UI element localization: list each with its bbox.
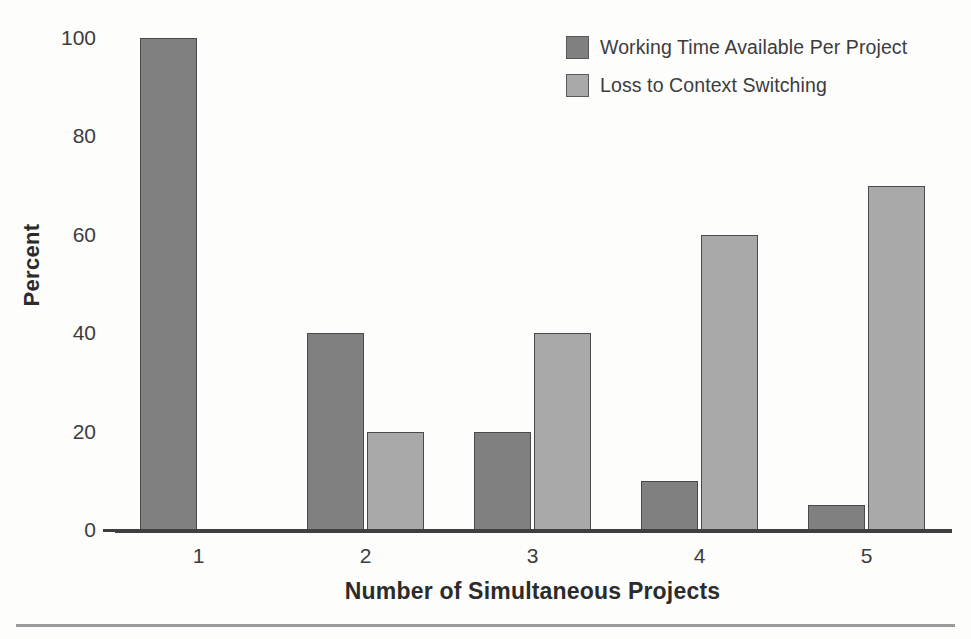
bar [868, 186, 925, 530]
bar [307, 333, 364, 530]
bottom-divider [16, 624, 955, 627]
bar [140, 38, 197, 530]
x-axis-line [115, 529, 952, 533]
bar-group [140, 38, 257, 530]
y-tick-label: 100 [36, 26, 96, 50]
x-tick-label: 2 [316, 544, 416, 568]
x-tick-label: 3 [483, 544, 583, 568]
y-tick-label: 60 [36, 223, 96, 247]
bar [474, 432, 531, 530]
plot-area [115, 38, 950, 530]
y-tick-label: 80 [36, 124, 96, 148]
x-tick-label: 4 [650, 544, 750, 568]
y-axis-title: Percent [19, 185, 45, 345]
bar-group [641, 38, 758, 530]
x-axis-tick-labels: 12345 [115, 544, 950, 574]
x-tick-label: 5 [817, 544, 917, 568]
y-axis-zero-tick [103, 529, 116, 532]
bar-group [808, 38, 925, 530]
bar-group [307, 38, 424, 530]
bar [701, 235, 758, 530]
y-tick-label: 20 [36, 420, 96, 444]
bar [534, 333, 591, 530]
bar-group [474, 38, 591, 530]
y-tick-label: 0 [36, 518, 96, 542]
x-axis-title: Number of Simultaneous Projects [115, 578, 950, 605]
bar [367, 432, 424, 530]
x-tick-label: 1 [149, 544, 249, 568]
bar [641, 481, 698, 530]
bar-chart-figure: Working Time Available Per Project Loss … [0, 0, 971, 639]
bar [808, 505, 865, 530]
y-tick-label: 40 [36, 321, 96, 345]
